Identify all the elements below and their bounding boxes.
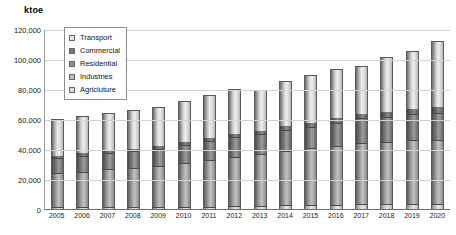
x-axis-tick-labels: 2005200620072008200920102011201220132014… — [44, 212, 450, 232]
stacked-bar[interactable] — [380, 57, 393, 210]
y-axis-tick-label: 120,000 — [2, 26, 44, 35]
bar-segment-residential — [77, 157, 88, 173]
bar-segment-industries — [255, 155, 266, 207]
bar-segment-residential — [255, 135, 266, 155]
bar-segment-transport — [153, 108, 164, 147]
x-axis-tick-label: 2016 — [324, 212, 347, 232]
x-axis-tick-label: 2013 — [248, 212, 271, 232]
stacked-bar[interactable] — [203, 95, 216, 211]
y-axis-tick-label: 100,000 — [2, 56, 44, 65]
bar-segment-industries — [128, 169, 139, 208]
x-axis-tick-label: 2012 — [223, 212, 246, 232]
transport-swatch-icon — [69, 35, 75, 41]
bar-segment-transport — [381, 58, 392, 112]
x-axis-tick-label: 2006 — [71, 212, 94, 232]
x-axis-tick-label: 2008 — [121, 212, 144, 232]
bar-segment-industries — [204, 161, 215, 208]
legend-item-commercial[interactable]: Commercial — [69, 44, 120, 57]
stacked-bar[interactable] — [279, 81, 292, 210]
gridline — [45, 120, 450, 121]
bar-segment-transport — [179, 102, 190, 143]
bar-segment-residential — [331, 124, 342, 147]
stacked-bar[interactable] — [304, 75, 317, 210]
x-axis-tick-label: 2009 — [147, 212, 170, 232]
bar-segment-residential — [128, 152, 139, 169]
bar-segment-residential — [356, 119, 367, 144]
stacked-bar-chart: ktoe 120,000100,00080,00060,00040,00020,… — [0, 0, 456, 235]
bar-segment-industries — [280, 152, 291, 206]
x-axis-tick-label: 2019 — [401, 212, 424, 232]
bar-segment-residential — [52, 159, 63, 175]
bar-segment-transport — [432, 42, 443, 108]
bar-segment-residential — [381, 118, 392, 143]
agriculture-swatch-icon — [69, 87, 75, 93]
chart-legend: TransportCommercialResidentialIndustries… — [64, 27, 127, 100]
bar-segment-residential — [103, 154, 114, 170]
stacked-bar[interactable] — [431, 41, 444, 211]
bar-segment-residential — [204, 142, 215, 161]
stacked-bar[interactable] — [51, 119, 64, 211]
legend-item-label: Transport — [80, 33, 112, 42]
bar-segment-residential — [432, 114, 443, 141]
x-axis-tick-label: 2014 — [274, 212, 297, 232]
x-axis-tick-label: 2018 — [375, 212, 398, 232]
bar-segment-industries — [305, 149, 316, 206]
bar-segment-industries — [356, 144, 367, 205]
legend-item-label: Commercial — [80, 46, 120, 55]
bar-segment-residential — [153, 150, 164, 167]
stacked-bar[interactable] — [406, 51, 419, 210]
bar-segment-transport — [331, 70, 342, 118]
bar-segment-industries — [179, 164, 190, 208]
bar-segment-transport — [77, 117, 88, 154]
legend-item-transport[interactable]: Transport — [69, 31, 120, 44]
bar-segment-industries — [153, 167, 164, 208]
bar-segment-transport — [229, 90, 240, 134]
y-axis-tick-label: 60,000 — [2, 116, 44, 125]
x-axis-line — [45, 209, 450, 210]
y-axis-title: ktoe — [24, 5, 43, 15]
bar-segment-industries — [331, 147, 342, 206]
stacked-bar[interactable] — [152, 107, 165, 211]
gridline — [45, 150, 450, 151]
gridline — [45, 180, 450, 181]
legend-item-industries[interactable]: Industries — [69, 70, 120, 83]
stacked-bar[interactable] — [178, 101, 191, 211]
legend-item-label: Agricluture — [80, 85, 116, 94]
x-axis-tick-label: 2010 — [172, 212, 195, 232]
bar-segment-industries — [77, 173, 88, 209]
bar-segment-residential — [280, 131, 291, 152]
x-axis-tick-label: 2005 — [45, 212, 68, 232]
legend-item-agricluture[interactable]: Agricluture — [69, 83, 120, 96]
bar-segment-residential — [305, 128, 316, 150]
stacked-bar[interactable] — [76, 116, 89, 211]
bar-segment-transport — [305, 76, 316, 123]
bar-segment-residential — [229, 138, 240, 157]
y-axis-tick-label: 0 — [2, 206, 44, 215]
bar-segment-industries — [229, 158, 240, 208]
bar-segment-residential — [179, 146, 190, 164]
residential-swatch-icon — [69, 61, 75, 67]
x-axis-tick-label: 2011 — [198, 212, 221, 232]
y-axis-tick-label: 20,000 — [2, 176, 44, 185]
legend-item-label: Industries — [80, 72, 113, 81]
stacked-bar[interactable] — [127, 110, 140, 211]
bar-segment-industries — [381, 143, 392, 205]
bar-segment-transport — [204, 96, 215, 139]
stacked-bar[interactable] — [102, 113, 115, 211]
x-axis-tick-label: 2015 — [299, 212, 322, 232]
x-axis-tick-label: 2017 — [350, 212, 373, 232]
legend-item-label: Residential — [80, 59, 117, 68]
x-axis-tick-label: 2007 — [96, 212, 119, 232]
bar-segment-industries — [103, 170, 114, 208]
legend-item-residential[interactable]: Residential — [69, 57, 120, 70]
y-axis-tick-labels: 120,000100,00080,00060,00040,00020,0000 — [0, 30, 44, 210]
industries-swatch-icon — [69, 74, 75, 80]
stacked-bar[interactable] — [355, 66, 368, 210]
x-axis-tick-label: 2020 — [426, 212, 449, 232]
y-axis-tick-label: 40,000 — [2, 146, 44, 155]
commercial-swatch-icon — [69, 48, 75, 54]
bar-segment-transport — [255, 91, 266, 131]
y-axis-tick-label: 80,000 — [2, 86, 44, 95]
bar-segment-transport — [128, 111, 139, 149]
